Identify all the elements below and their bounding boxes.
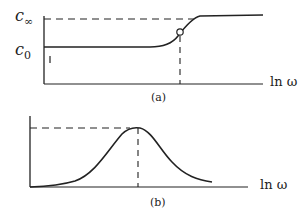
panel-a-step-curve (44, 15, 263, 47)
panel-a-x-label: ln ω (270, 74, 297, 89)
c0-label: c0 (15, 40, 31, 62)
panel-b (30, 116, 248, 187)
panel-a (44, 15, 263, 84)
panel-b-peak-curve (30, 128, 212, 187)
panel-a-caption: (a) (151, 91, 166, 104)
c0-subscript: 0 (24, 49, 31, 62)
inflection-point-marker (177, 29, 183, 35)
c-infinity-label: c∞ (15, 6, 33, 28)
c0-symbol: c (15, 40, 24, 59)
panel-b-x-label: ln ω (260, 177, 287, 192)
c-infinity-subscript: ∞ (24, 15, 33, 28)
c-infinity-symbol: c (15, 6, 24, 25)
panel-b-caption: (b) (150, 196, 166, 209)
